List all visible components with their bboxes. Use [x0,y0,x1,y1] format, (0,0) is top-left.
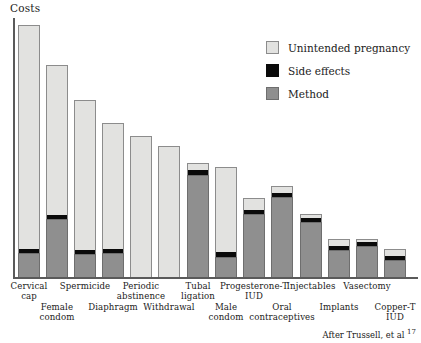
bar-segment-method [356,246,378,277]
legend-item-0: Unintended pregnancy [266,41,410,54]
bar-cervical-cap [18,25,40,277]
legend-item-1: Side effects [266,64,410,77]
bar-segment-unintended-pregnancy [130,136,152,277]
bar-injectables [300,214,322,277]
bar-segment-unintended-pregnancy [328,239,350,246]
bar-segment-method [74,254,96,277]
bar-segment-unintended-pregnancy [384,249,406,256]
bar-segment-method [243,214,265,277]
legend-swatch-pregnancy [266,41,279,54]
legend-item-2: Method [266,87,410,100]
bar-segment-unintended-pregnancy [102,123,124,249]
bar-male-condom [215,167,237,277]
legend-label-1: Side effects [288,65,350,77]
bar-segment-method [187,175,209,277]
bar-female-condom [46,65,68,277]
bar-segment-unintended-pregnancy [74,100,96,250]
bar-segment-unintended-pregnancy [46,65,68,215]
bar-segment-method [102,253,124,277]
bar-chart: Costs Cervical capFemale condomSpermicid… [0,0,421,343]
attribution-reference: 17 [407,328,416,336]
bar-segment-unintended-pregnancy [243,198,265,210]
bar-vasectomy [356,239,378,277]
bar-segment-method [215,257,237,277]
x-axis-line [13,277,418,279]
bar-segment-method [300,222,322,277]
legend-label-2: Method [288,88,329,100]
bar-segment-unintended-pregnancy [215,167,237,252]
bar-segment-unintended-pregnancy [271,186,293,193]
bar-periodic-abstinence [130,136,152,277]
bar-segment-method [384,260,406,277]
bar-segment-unintended-pregnancy [158,146,180,277]
x-tick-label-copper-t-iud: Copper-T IUD [359,303,421,322]
bar-copper-t-iud [384,249,406,277]
bar-segment-method [46,219,68,277]
attribution-text: After Trussell, et al [323,330,405,340]
chart-legend: Unintended pregnancySide effectsMethod [266,41,410,100]
bar-progesterone-t-iud [243,198,265,277]
bar-withdrawal [158,146,180,277]
bar-segment-method [271,197,293,277]
legend-swatch-method [266,87,279,100]
bar-oral-contraceptives [271,186,293,277]
y-axis-label: Costs [10,2,40,14]
bar-tubal-ligation [187,163,209,277]
bar-segment-unintended-pregnancy [18,25,40,249]
bar-segment-method [328,250,350,277]
bar-diaphragm [102,123,124,277]
bar-segment-unintended-pregnancy [187,163,209,170]
legend-swatch-side-effects [266,64,279,77]
bar-spermicide [74,100,96,277]
attribution-note: After Trussell, et al 17 [323,328,416,340]
bar-implants [328,239,350,277]
x-tick-label-vasectomy: Vasectomy [331,282,403,292]
bar-segment-method [18,253,40,277]
legend-label-0: Unintended pregnancy [288,42,410,54]
